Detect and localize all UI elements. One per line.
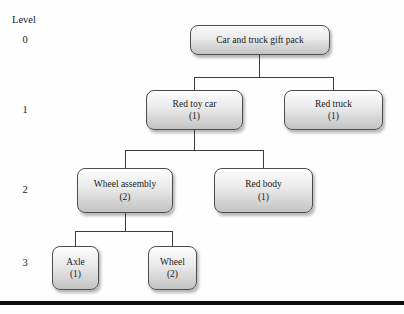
node-label: Car and truck gift pack (216, 34, 304, 46)
connector-level3-rail (75, 231, 173, 232)
bottom-rule (0, 301, 404, 305)
connector-red-toy-car-stem (194, 130, 195, 150)
connector-root-stem (259, 55, 260, 77)
node-qty: (1) (328, 110, 339, 122)
node-label: Red body (245, 178, 282, 190)
connector-drop-red-truck (333, 77, 334, 90)
connector-drop-red-body (263, 150, 264, 168)
connector-wheel-assembly-stem (125, 213, 126, 231)
node-label: Wheel assembly (94, 178, 157, 190)
node-qty: (1) (189, 110, 200, 122)
node-qty: (2) (119, 191, 130, 203)
connector-level1-rail (194, 77, 334, 78)
connector-drop-wheel-assembly (125, 150, 126, 168)
node-axle: Axle (1) (52, 246, 99, 290)
connector-drop-wheel (172, 231, 173, 246)
node-qty: (2) (167, 268, 178, 280)
node-wheel-assembly: Wheel assembly (2) (77, 168, 173, 213)
node-red-body: Red body (1) (214, 168, 313, 213)
node-qty: (1) (70, 268, 81, 280)
node-qty: (1) (258, 191, 269, 203)
connector-drop-axle (75, 231, 76, 246)
level-label-1: 1 (18, 104, 32, 115)
level-axis-title: Level (12, 14, 36, 25)
level-label-0: 0 (18, 34, 32, 45)
level-label-2: 2 (18, 184, 32, 195)
connector-drop-red-toy-car (194, 77, 195, 90)
connector-level2-rail (125, 150, 264, 151)
node-red-toy-car: Red toy car (1) (146, 90, 243, 130)
node-wheel: Wheel (2) (148, 246, 197, 290)
node-label: Red truck (315, 98, 352, 110)
node-red-truck: Red truck (1) (284, 90, 383, 130)
bom-tree-diagram: Level 0 1 2 3 Car and truck gift pack Re… (0, 0, 404, 314)
level-label-3: 3 (18, 257, 32, 268)
node-car-and-truck-gift-pack: Car and truck gift pack (190, 25, 330, 55)
node-label: Wheel (160, 256, 185, 268)
node-label: Axle (66, 256, 84, 268)
node-label: Red toy car (173, 98, 217, 110)
